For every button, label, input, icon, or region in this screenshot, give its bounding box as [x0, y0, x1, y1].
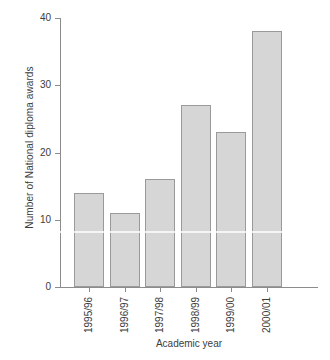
bar — [74, 193, 104, 287]
x-tick-mark — [196, 288, 197, 292]
bar — [181, 105, 211, 287]
x-tick-mark — [231, 288, 232, 292]
x-category-label: 2000/01 — [262, 297, 272, 333]
x-axis-title: Academic year — [60, 338, 318, 349]
bar — [110, 213, 140, 287]
x-category-label: 1997/98 — [155, 297, 165, 333]
x-category-label: 1996/97 — [120, 297, 130, 333]
plot-area — [0, 0, 330, 360]
bar — [216, 132, 246, 287]
bar-chart: Number of National diploma awards 010203… — [0, 0, 330, 360]
x-category-label: 1995/96 — [84, 297, 94, 333]
x-tick-mark — [160, 288, 161, 292]
x-tick-mark — [125, 288, 126, 292]
x-tick-mark — [267, 288, 268, 292]
x-category-label: 1998/99 — [191, 297, 201, 333]
bar — [145, 179, 175, 287]
scan-line-artifact — [60, 231, 318, 233]
x-tick-mark — [89, 288, 90, 292]
x-category-label: 1999/00 — [226, 297, 236, 333]
bar — [252, 31, 282, 287]
